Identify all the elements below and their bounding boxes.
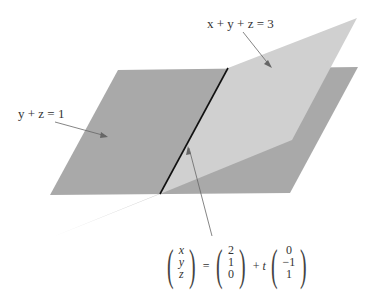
lhs-vector: ( x y z ) [163, 244, 200, 288]
label-plane-x-y-z-3: x + y + z = 3 [207, 16, 274, 32]
direction-vector: ( 0 −1 1 ) [267, 244, 311, 288]
dir-z: 1 [286, 268, 292, 280]
point-z: 0 [228, 268, 234, 280]
point-vector: ( 2 1 0 ) [212, 244, 249, 288]
lhs-z: z [179, 268, 184, 280]
plus-sign: + [253, 259, 260, 274]
label-plane-y-z-1: y + z = 1 [18, 106, 64, 122]
vector-equation: ( x y z ) = ( 2 1 0 ) + t ( 0 −1 1 ) [163, 244, 311, 288]
parameter-t: t [263, 259, 266, 274]
equals-sign: = [203, 259, 210, 274]
